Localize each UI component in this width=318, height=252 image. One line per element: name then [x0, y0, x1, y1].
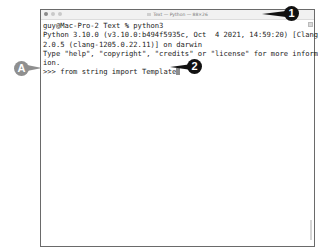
command-input[interactable]: from string import Template: [60, 67, 176, 76]
prompt: >>>: [43, 67, 60, 76]
window-title-text: Text — Python — 88×26: [153, 12, 208, 17]
terminal-line: Python 3.10.0 (v3.10.0:b494f5935c, Oct 4…: [43, 30, 306, 39]
terminal-line: guy@Mac-Pro-2 Text % python3: [43, 21, 306, 30]
terminal-window: Text — Python — 88×26 guy@Mac-Pro-2 Text…: [40, 9, 315, 247]
scroll-indicator[interactable]: [308, 22, 313, 27]
folder-icon: [147, 13, 151, 16]
callout-1: 1: [284, 6, 299, 21]
vertical-scrollbar[interactable]: [310, 220, 312, 240]
callout-1-arrow: [262, 11, 286, 17]
terminal-line: 2.0.5 (clang-1205.0.22.11)] on darwin: [43, 40, 306, 49]
callout-a-arrow: [27, 65, 42, 71]
callout-2: 2: [187, 59, 202, 74]
terminal-line: Type "help", "copyright", "credits" or "…: [43, 49, 306, 58]
